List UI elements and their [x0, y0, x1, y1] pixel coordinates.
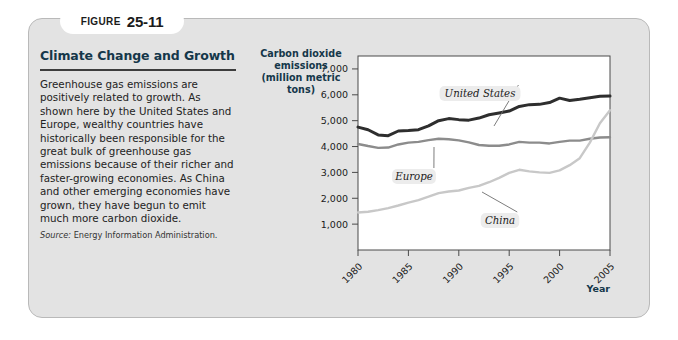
figure-badge-number: 25-11: [127, 13, 164, 30]
figure-root: FIGURE 25-11 Climate Change and Growth G…: [0, 0, 678, 340]
y-axis-tick-label: 4,000: [321, 141, 348, 152]
title-divider: [40, 69, 236, 71]
chart-container: Carbon dioxide emissions (million metric…: [246, 44, 638, 294]
figure-title: Climate Change and Growth: [40, 48, 236, 63]
x-axis-tick-label: 1980: [340, 261, 365, 286]
figure-body-text: Greenhouse gas emissions are positively …: [40, 78, 236, 225]
series-label-china: China: [485, 215, 515, 226]
y-axis-title-line-1: Carbon dioxide: [246, 48, 356, 60]
x-axis-tick-label: 2000: [541, 261, 566, 286]
y-axis-tick-label: 2,000: [321, 193, 348, 204]
figure-text-column: Climate Change and Growth Greenhouse gas…: [40, 48, 236, 241]
source-label: Source:: [40, 230, 71, 240]
x-axis-tick-label: 1985: [390, 261, 415, 286]
y-axis-title-line-2: emissions: [246, 60, 356, 72]
y-axis-title: Carbon dioxide emissions (million metric…: [246, 48, 356, 96]
figure-source: Source: Energy Information Administratio…: [40, 230, 236, 241]
series-label-europe: Europe: [394, 171, 433, 182]
x-axis-tick-label: 1995: [491, 261, 516, 286]
figure-badge: FIGURE 25-11: [60, 8, 184, 34]
y-axis-tick-label: 3,000: [321, 167, 348, 178]
x-axis-title: Year: [585, 283, 610, 294]
y-axis-tick-label: 1,000: [321, 219, 348, 230]
y-axis-title-line-3: (million metric tons): [246, 72, 356, 96]
x-axis-tick-label: 1990: [440, 261, 465, 286]
x-axis-tick-label: 2005: [592, 261, 617, 286]
y-axis-tick-label: 5,000: [321, 115, 348, 126]
series-label-united-states: United States: [445, 88, 516, 99]
source-text: Energy Information Administration.: [74, 230, 218, 240]
figure-badge-word: FIGURE: [81, 16, 121, 27]
